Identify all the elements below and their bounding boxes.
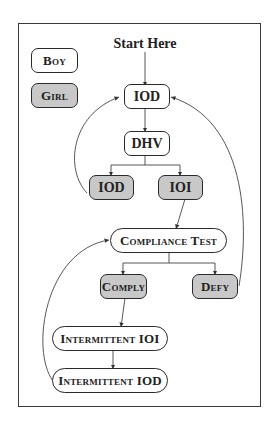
start-label: Start Here	[100, 36, 190, 52]
edge-dhv-split	[111, 155, 180, 165]
edge-compliance-split	[123, 252, 215, 263]
edge-comply-to-int-ioi	[121, 298, 125, 327]
node-intermittent-ioi: Intermittent IOI	[52, 326, 168, 351]
node-iod-mid: IOD	[89, 175, 134, 200]
node-iod-top: IOD	[124, 84, 170, 109]
node-compliance-test: Compliance Test	[110, 228, 227, 253]
legend-boy: Boy	[31, 48, 78, 73]
node-defy: Defy	[192, 274, 238, 299]
node-ioi-mid: IOI	[158, 175, 203, 200]
node-comply: Comply	[100, 274, 147, 299]
edge-int-iod-to-compliance	[43, 240, 109, 381]
node-dhv: DHV	[124, 131, 170, 156]
legend-girl: Girl	[31, 83, 78, 108]
node-intermittent-iod: Intermittent IOD	[52, 368, 168, 393]
edge-ioi-to-compliance	[176, 199, 185, 229]
